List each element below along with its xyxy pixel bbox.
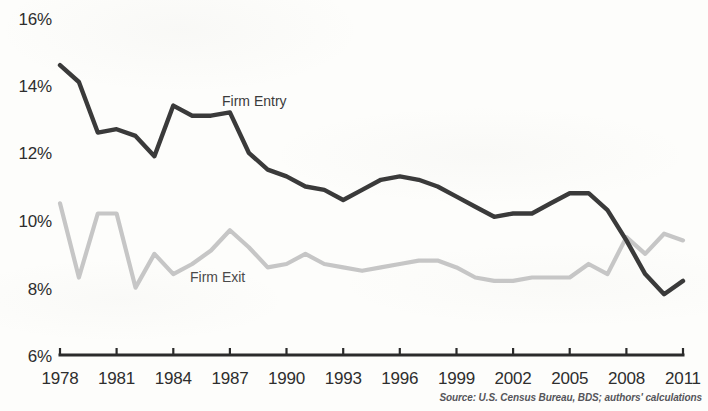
x-tick-label: 1996 (381, 370, 418, 387)
source-note: Source: U.S. Census Bureau, BDS; authors… (439, 392, 702, 403)
x-tick-label: 1981 (98, 370, 135, 387)
x-tick-label: 1978 (41, 370, 78, 387)
line-firm-entry (60, 65, 683, 294)
y-tick-label: 12% (6, 145, 52, 162)
x-tick-label: 2011 (665, 370, 701, 387)
series-label-firm-entry: Firm Entry (222, 94, 287, 108)
y-tick-label: 10% (6, 213, 52, 230)
y-tick-label: 16% (6, 11, 52, 28)
x-tick-label: 2008 (608, 370, 645, 387)
y-tick-label: 8% (6, 281, 52, 298)
series-label-firm-exit: Firm Exit (190, 270, 245, 284)
series-layer (60, 65, 683, 294)
x-tick-label: 2005 (551, 370, 588, 387)
y-axis: 16% 14% 12% 10% 8% 6% (0, 0, 52, 411)
y-tick-label: 14% (6, 78, 52, 95)
x-tick-label: 1993 (325, 370, 362, 387)
chart-figure: 16% 14% 12% 10% 8% 6% 197819811984198719… (0, 0, 708, 411)
chart-plot-area (0, 0, 708, 411)
x-tick-label: 1984 (155, 370, 192, 387)
line-firm-exit (60, 203, 683, 287)
x-tick-label: 1987 (211, 370, 248, 387)
x-tick-label: 2002 (495, 370, 532, 387)
x-axis-labels: 1978198119841987199019931996199920022005… (0, 366, 708, 392)
y-tick-label: 6% (6, 348, 52, 365)
x-tick-label: 1990 (268, 370, 305, 387)
x-axis (60, 348, 683, 355)
x-tick-label: 1999 (438, 370, 475, 387)
